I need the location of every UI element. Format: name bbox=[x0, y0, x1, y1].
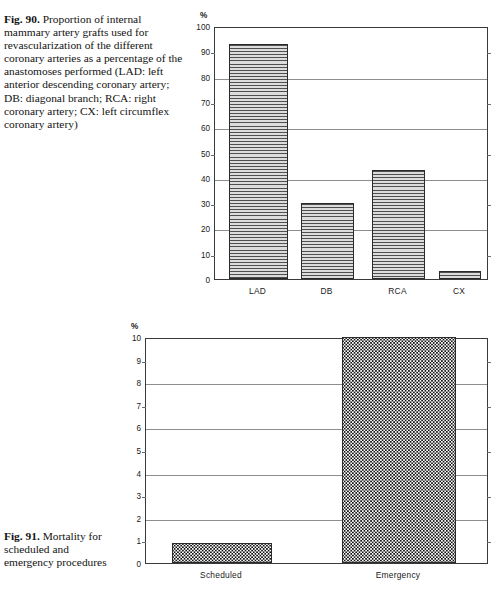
chart-bar bbox=[372, 170, 425, 279]
chart-y-axis-label: 40 bbox=[180, 174, 210, 183]
chart-y-axis-label: 9 bbox=[111, 356, 141, 365]
chart-y-axis-label: 7 bbox=[111, 401, 141, 410]
chart-2-plot-area bbox=[145, 338, 488, 564]
chart-y-axis-label: 0 bbox=[180, 276, 210, 285]
chart-x-axis-label: CX bbox=[419, 286, 499, 296]
chart-1-axis-unit: % bbox=[200, 11, 207, 20]
chart-y-axis-label: 30 bbox=[180, 200, 210, 209]
chart-y-tick bbox=[142, 407, 146, 408]
chart-y-tick bbox=[487, 542, 491, 543]
chart-y-axis-label: 3 bbox=[111, 492, 141, 501]
chart-y-tick bbox=[142, 362, 146, 363]
chart-y-tick bbox=[487, 256, 491, 257]
chart-y-axis-label: 80 bbox=[180, 73, 210, 82]
chart-y-tick bbox=[211, 104, 215, 105]
figure-91-label: Fig. 91. bbox=[4, 530, 40, 542]
chart-y-tick bbox=[142, 542, 146, 543]
chart-y-axis-label: 90 bbox=[180, 48, 210, 57]
chart-y-tick bbox=[211, 53, 215, 54]
chart-2-axis-unit: % bbox=[131, 322, 138, 331]
chart-y-tick bbox=[142, 497, 146, 498]
chart-x-axis-label: Emergency bbox=[358, 570, 438, 580]
chart-1-plot-area bbox=[214, 27, 488, 280]
chart-y-axis-label: 60 bbox=[180, 124, 210, 133]
figure-90-caption-text: Proportion of internal mammary artery gr… bbox=[4, 13, 182, 130]
chart-y-axis-label: 8 bbox=[111, 379, 141, 388]
chart-x-axis-label: Scheduled bbox=[181, 570, 261, 580]
chart-y-axis-label: 6 bbox=[111, 424, 141, 433]
chart-y-axis-label: 2 bbox=[111, 514, 141, 523]
figure-90-label: Fig. 90. bbox=[4, 13, 40, 25]
chart-y-axis-label: 4 bbox=[111, 469, 141, 478]
chart-y-axis-label: 20 bbox=[180, 225, 210, 234]
chart-y-axis-label: 1 bbox=[111, 537, 141, 546]
figure-91-caption: Fig. 91. Mortality for scheduled and eme… bbox=[4, 530, 120, 569]
chart-y-tick bbox=[487, 362, 491, 363]
chart-bar bbox=[229, 44, 288, 279]
chart-y-tick bbox=[211, 205, 215, 206]
chart-y-tick bbox=[211, 155, 215, 156]
chart-y-axis-label: 10 bbox=[111, 334, 141, 343]
chart-y-tick bbox=[487, 155, 491, 156]
chart-y-tick bbox=[487, 497, 491, 498]
chart-y-axis-label: 70 bbox=[180, 98, 210, 107]
figure-90-caption: Fig. 90. Proportion of internal mammary … bbox=[4, 13, 184, 131]
chart-y-axis-label: 50 bbox=[180, 149, 210, 158]
chart-x-axis-label: DB bbox=[287, 286, 367, 296]
chart-y-axis-label: 5 bbox=[111, 447, 141, 456]
chart-bar bbox=[301, 203, 354, 279]
chart-y-tick bbox=[211, 256, 215, 257]
chart-bar bbox=[439, 271, 481, 279]
chart-y-tick bbox=[487, 407, 491, 408]
chart-y-axis-label: 100 bbox=[180, 23, 210, 32]
chart-bar bbox=[172, 543, 272, 563]
chart-y-tick bbox=[487, 205, 491, 206]
chart-y-axis-label: 0 bbox=[111, 560, 141, 569]
chart-y-tick bbox=[142, 452, 146, 453]
chart-y-tick bbox=[487, 104, 491, 105]
chart-bar bbox=[342, 337, 456, 563]
chart-x-axis-label: LAD bbox=[218, 286, 298, 296]
chart-y-tick bbox=[487, 53, 491, 54]
chart-y-tick bbox=[487, 452, 491, 453]
chart-y-axis-label: 10 bbox=[180, 250, 210, 259]
